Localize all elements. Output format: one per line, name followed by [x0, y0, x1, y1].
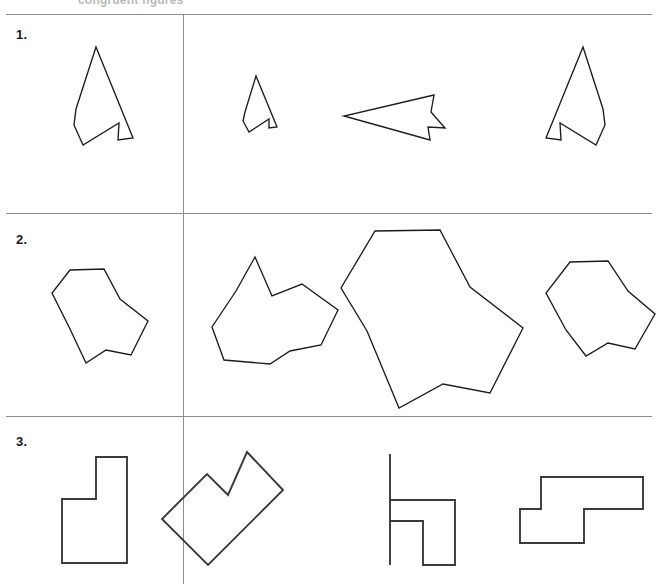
option-2-c[interactable] — [546, 261, 655, 356]
option-3-b[interactable] — [390, 454, 455, 565]
reference-shape-blob — [52, 269, 148, 363]
option-2-b[interactable] — [341, 230, 523, 408]
row-1-number: 1. — [16, 27, 27, 42]
option-1-c[interactable] — [546, 47, 605, 145]
option-3-a[interactable] — [162, 452, 283, 565]
row-2-number: 2. — [16, 232, 27, 247]
rule-between-1-and-2 — [6, 213, 652, 214]
row-3-number: 3. — [16, 434, 27, 449]
option-2-a[interactable] — [212, 257, 338, 364]
cropped-header-text: congruent figures — [0, 0, 656, 9]
reference-shape-zigzag — [62, 457, 127, 563]
rule-top — [6, 14, 652, 15]
option-3-c[interactable] — [520, 477, 643, 543]
option-1-b[interactable] — [344, 95, 445, 140]
option-1-a[interactable] — [243, 76, 277, 132]
rule-between-2-and-3 — [6, 416, 652, 417]
shape-layer — [0, 0, 656, 584]
reference-shape-arrow — [74, 47, 133, 145]
worksheet-page: congruent figures 1. 2. 3. — [0, 0, 656, 584]
reference-answer-divider — [183, 14, 184, 584]
